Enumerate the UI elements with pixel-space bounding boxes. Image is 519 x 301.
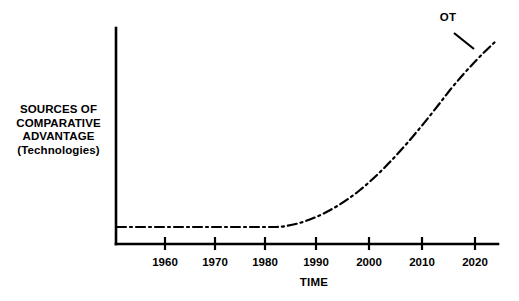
- x-axis-label-1990: 1990: [289, 255, 343, 269]
- y-axis-title: SOURCES OF COMPARATIVE ADVANTAGE (Techno…: [6, 103, 111, 157]
- growth-curve-ot: [117, 42, 495, 227]
- x-axis-label-1960: 1960: [138, 255, 192, 269]
- x-axis-label-2020: 2020: [448, 255, 502, 269]
- x-axis-title: TIME: [274, 276, 354, 288]
- y-axis-title-line-2: COMPARATIVE: [6, 117, 111, 131]
- x-axis-label-2010: 2010: [395, 255, 449, 269]
- y-axis-title-line-3: ADVANTAGE: [6, 130, 111, 144]
- x-axis-label-1980: 1980: [238, 255, 292, 269]
- x-axis-label-1970: 1970: [188, 255, 242, 269]
- y-axis-title-line-1: SOURCES OF: [6, 103, 111, 117]
- ot-leader-line: [454, 33, 474, 49]
- y-axis-title-line-4: (Technologies): [6, 144, 111, 158]
- chart-figure: SOURCES OF COMPARATIVE ADVANTAGE (Techno…: [0, 0, 519, 301]
- ot-annotation-label: OT: [428, 11, 468, 23]
- x-axis-label-2000: 2000: [342, 255, 396, 269]
